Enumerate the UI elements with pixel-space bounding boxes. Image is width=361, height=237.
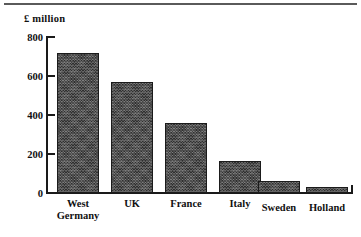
bar-sweden[interactable]: [258, 181, 300, 193]
bar-chart: £ million 800 600 400 200 0 West Germany…: [0, 0, 361, 237]
bar-france[interactable]: [165, 123, 207, 193]
x-label-holland: Holland: [297, 202, 357, 214]
x-label-france: France: [157, 198, 215, 210]
bar-italy[interactable]: [219, 161, 261, 193]
bar-holland[interactable]: [306, 187, 348, 193]
bar-west-germany[interactable]: [57, 53, 99, 193]
x-label-west-germany: West Germany: [52, 198, 104, 222]
x-label-uk: UK: [106, 198, 158, 210]
bar-uk[interactable]: [111, 82, 153, 193]
